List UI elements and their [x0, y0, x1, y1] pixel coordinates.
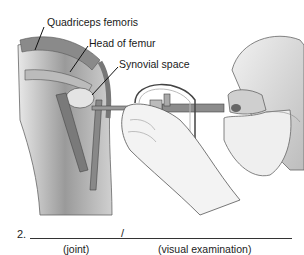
hint-visual-examination: (visual examination): [158, 243, 251, 255]
label-synovial-space: Synovial space: [119, 59, 190, 70]
gloved-hand: [122, 104, 240, 215]
answer-blank-line[interactable]: [30, 238, 292, 239]
question-number: 2.: [17, 228, 26, 240]
hint-joint: (joint): [63, 243, 89, 255]
arthroscopy-illustration: [0, 0, 304, 220]
answer-separator: /: [121, 227, 124, 239]
knee-anatomy: [18, 37, 112, 215]
label-head-of-femur: Head of femur: [89, 38, 156, 49]
surgeon: [224, 36, 304, 176]
label-quadriceps-femoris: Quadriceps femoris: [47, 17, 138, 28]
